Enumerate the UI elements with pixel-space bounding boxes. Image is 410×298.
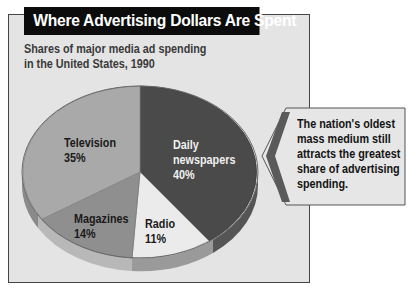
callout-text: The nation's oldest mass medium still at…	[297, 117, 401, 192]
